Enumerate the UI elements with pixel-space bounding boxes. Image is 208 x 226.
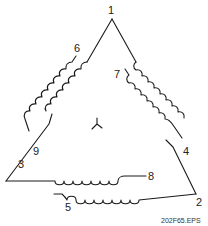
- terminal-label-2: 2: [196, 196, 202, 208]
- figure-caption: 202F65.EPS: [161, 217, 201, 224]
- terminal-label-9: 9: [33, 145, 39, 157]
- terminal-label-4: 4: [183, 145, 189, 157]
- terminal-label-5: 5: [65, 201, 71, 213]
- terminal-label-3: 3: [18, 158, 24, 170]
- winding-left-outer: [6, 19, 112, 181]
- winding-bottom-upper: [6, 176, 146, 185]
- wye-symbol: [92, 118, 102, 129]
- winding-right-inner: [125, 69, 182, 138]
- winding-bottom-lower: [54, 194, 196, 204]
- terminal-label-8: 8: [148, 170, 154, 182]
- terminal-label-1: 1: [108, 4, 114, 16]
- terminal-label-6: 6: [74, 42, 80, 54]
- terminal-label-7: 7: [114, 68, 120, 80]
- delta-winding-diagram: 1 2 3 4 5 6 7 8 9 202F65.EPS: [0, 0, 208, 226]
